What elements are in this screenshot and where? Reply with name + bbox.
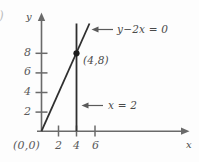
graph-figure: ) y x 8 6 4 2 2 4 6 (0,0) (4,8) y−2x = 0… <box>0 0 199 162</box>
line-annotation-arrow <box>92 26 114 32</box>
x-tick-label-4: 4 <box>73 140 80 151</box>
y-tick-label-6: 6 <box>24 66 31 77</box>
y-tick-label-4: 4 <box>24 86 31 97</box>
vline-equation-label: x = 2 <box>108 100 137 111</box>
x-axis-label: x <box>186 140 192 150</box>
x-axis <box>37 128 190 135</box>
y-tick-label-8: 8 <box>24 47 31 58</box>
x-tick-label-6: 6 <box>92 140 99 151</box>
intersection-point-marker <box>73 50 79 56</box>
line-equation-label: y−2x = 0 <box>117 24 168 35</box>
y-axis-label: y <box>26 12 32 22</box>
line-y-minus-2x <box>42 24 90 132</box>
x-tick-label-2: 2 <box>55 140 62 151</box>
coordinate-plot-svg <box>0 0 199 162</box>
item-label: ) <box>0 10 4 22</box>
y-tick-label-2: 2 <box>24 106 31 117</box>
vline-annotation-arrow <box>82 102 104 108</box>
origin-label: (0,0) <box>13 140 40 151</box>
point-label-4-8: (4,8) <box>83 55 109 66</box>
